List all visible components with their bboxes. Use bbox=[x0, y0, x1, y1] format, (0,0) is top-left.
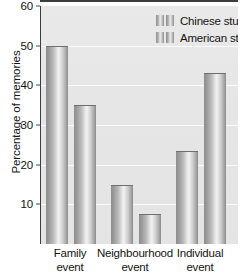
legend-swatch-icon bbox=[156, 32, 164, 43]
bar bbox=[204, 73, 226, 244]
y-tick-label: 30 bbox=[21, 119, 33, 131]
x-tick-label-line: Family bbox=[54, 247, 87, 259]
bar-chart-figure: Percentage of memories 102030405060 Chin… bbox=[0, 0, 242, 279]
y-tick-label: 50 bbox=[21, 40, 33, 52]
plot-area: Chinese students American students bbox=[40, 6, 238, 244]
y-tick-label: 60 bbox=[21, 0, 33, 12]
bar bbox=[111, 185, 133, 245]
x-axis-line bbox=[40, 0, 238, 2]
bar bbox=[74, 105, 96, 244]
bar bbox=[139, 214, 161, 244]
legend-swatch-icon bbox=[166, 15, 174, 26]
legend-swatch-icon bbox=[166, 32, 174, 43]
legend-item-chinese-students: Chinese students bbox=[156, 14, 238, 27]
legend-item-american-students: American students bbox=[156, 31, 238, 44]
bar bbox=[46, 46, 68, 244]
x-tick-label: Individualevent bbox=[150, 246, 242, 274]
y-tick-label: 40 bbox=[21, 79, 33, 91]
chart-legend: Chinese students American students bbox=[156, 14, 238, 48]
x-axis-ticks: FamilyeventNeighbourhoodeventIndividuale… bbox=[40, 246, 238, 279]
gridline bbox=[41, 46, 238, 47]
y-axis-ticks: 102030405060 bbox=[0, 0, 40, 279]
legend-label: American students bbox=[180, 32, 238, 44]
legend-swatch-icon bbox=[156, 15, 164, 26]
y-tick-label: 20 bbox=[21, 159, 33, 171]
x-tick-label-line: event bbox=[150, 260, 242, 274]
legend-label: Chinese students bbox=[180, 15, 238, 27]
bar bbox=[176, 151, 198, 244]
y-tick-label: 10 bbox=[21, 198, 33, 210]
x-tick-label-line: Individual bbox=[177, 247, 224, 259]
